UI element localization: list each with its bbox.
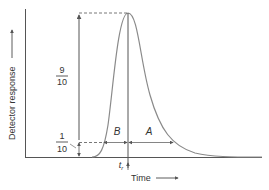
- segment-a-label: A: [145, 126, 153, 137]
- retention-time-label: tr: [119, 160, 125, 171]
- fraction-bottom-denominator: 10: [57, 144, 67, 154]
- fraction-top-numerator: 9: [59, 65, 64, 75]
- x-axis-label: Time: [131, 173, 151, 183]
- segment-b-label: B: [114, 126, 121, 137]
- fraction-bottom-numerator: 1: [59, 131, 64, 141]
- y-axis-label: Detector response: [7, 66, 17, 140]
- fraction-top-denominator: 10: [57, 77, 67, 87]
- peak-asymmetry-diagram: 9 10 1 10 B A tr Time Detector response: [0, 0, 269, 190]
- fraction-bottom-leader: [70, 144, 76, 148]
